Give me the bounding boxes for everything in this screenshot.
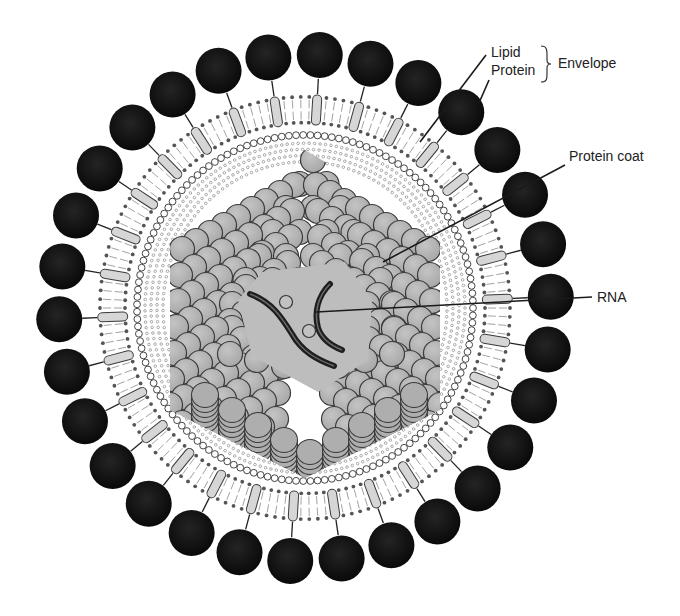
label-protein-coat: Protein coat [569,148,644,164]
label-rna: RNA [597,289,627,305]
leader-protein [479,80,489,103]
label-protein: Protein [491,62,535,78]
virus-diagram: Lipid Protein Envelope Protein coat RNA [0,0,680,616]
label-lipid: Lipid [491,44,521,60]
envelope-brace [541,46,551,82]
label-envelope: Envelope [558,55,617,71]
